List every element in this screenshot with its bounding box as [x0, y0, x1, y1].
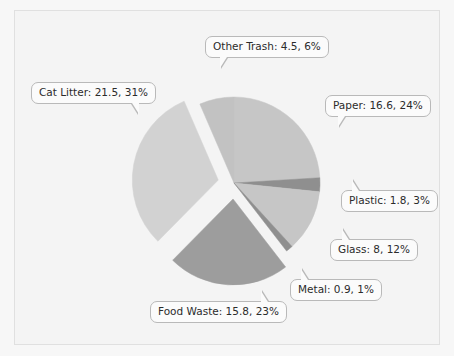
callout-glass-label: Glass: 8, 12%: [338, 243, 410, 255]
pie-slice-paper[interactable]: [234, 97, 320, 183]
callout-other-trash-label: Other Trash: 4.5, 6%: [213, 40, 321, 52]
callout-metal-label: Metal: 0.9, 1%: [298, 283, 374, 295]
callout-metal[interactable]: Metal: 0.9, 1%: [290, 279, 382, 301]
callout-food-waste-tail: [261, 291, 268, 302]
callout-cat-litter-tail: [132, 103, 139, 114]
pie-slice-cat-litter[interactable]: [132, 101, 218, 241]
callout-other-trash-tail: [220, 57, 227, 68]
callout-food-waste-label: Food Waste: 15.8, 23%: [158, 305, 279, 317]
callout-glass-tail: [342, 229, 349, 240]
callout-paper[interactable]: Paper: 16.6, 24%: [325, 95, 431, 117]
callout-other-trash[interactable]: Other Trash: 4.5, 6%: [205, 36, 329, 58]
callout-paper-tail: [338, 116, 345, 127]
callout-cat-litter-label: Cat Litter: 21.5, 31%: [39, 86, 148, 98]
callout-plastic[interactable]: Plastic: 1.8, 3%: [341, 190, 438, 212]
callout-cat-litter[interactable]: Cat Litter: 21.5, 31%: [31, 82, 156, 104]
callout-paper-label: Paper: 16.6, 24%: [333, 99, 423, 111]
callout-glass[interactable]: Glass: 8, 12%: [330, 239, 418, 261]
callout-plastic-tail: [352, 180, 359, 191]
pie-chart-figure: Other Trash: 4.5, 6% Cat Litter: 21.5, 3…: [0, 0, 454, 356]
callout-plastic-label: Plastic: 1.8, 3%: [349, 194, 430, 206]
callout-food-waste[interactable]: Food Waste: 15.8, 23%: [150, 301, 287, 323]
callout-metal-tail: [301, 269, 308, 280]
